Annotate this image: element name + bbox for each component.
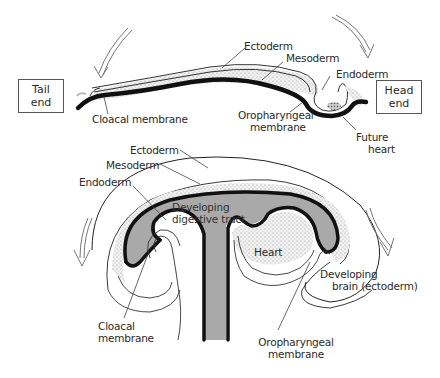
embryo-folding-diagram: Tail end Head end Ectoderm Mesoderm Endo… [0, 0, 440, 378]
brain-line2: brain (ectoderm) [320, 280, 418, 292]
tail-end-box: Tail end [18, 79, 64, 113]
brain-line1: Developing [320, 268, 418, 280]
bottom-oropharyngeal-line1: Oropharyngeal [254, 336, 338, 348]
tail-end-line2: end [31, 96, 52, 109]
bottom-label-mesoderm: Mesoderm [106, 159, 159, 171]
bottom-label-heart: Heart [254, 246, 282, 258]
top-label-endoderm: Endoderm [336, 68, 388, 80]
diagram-artwork [0, 0, 440, 378]
head-end-line1: Head [385, 84, 414, 97]
bottom-cloacal-line2: membrane [98, 332, 154, 344]
top-label-mesoderm: Mesoderm [286, 52, 339, 64]
bottom-label-developing-brain: Developing brain (ectoderm) [320, 268, 418, 292]
head-end-line2: end [389, 97, 410, 110]
bottom-label-developing-digestive-tract: Developing digestive tract [172, 201, 245, 225]
top-oropharyngeal-line2: membrane [238, 121, 314, 133]
future-heart-line2: heart [356, 143, 395, 155]
bottom-oropharyngeal-line2: membrane [254, 348, 338, 360]
bottom-label-cloacal-membrane: Cloacal membrane [98, 320, 154, 344]
top-label-future-heart: Future heart [356, 131, 395, 155]
folding-arrow-right-icon [366, 208, 394, 256]
top-label-oropharyngeal-membrane: Oropharyngeal membrane [238, 109, 314, 133]
tail-end-line1: Tail [32, 83, 50, 96]
head-end-box: Head end [376, 80, 422, 114]
bottom-cloacal-line1: Cloacal [98, 320, 154, 332]
folding-arrow-left-icon [74, 218, 92, 266]
future-heart-line1: Future [356, 131, 395, 143]
bottom-label-oropharyngeal-membrane: Oropharyngeal membrane [254, 336, 338, 360]
folding-arrow-tail-icon [94, 28, 132, 78]
top-label-cloacal-membrane: Cloacal membrane [92, 113, 188, 125]
digestive-line1: Developing [172, 201, 245, 213]
top-label-ectoderm: Ectoderm [244, 40, 293, 52]
digestive-line2: digestive tract [172, 213, 245, 225]
top-oropharyngeal-line1: Oropharyngeal [238, 109, 314, 121]
bottom-label-endoderm: Endoderm [79, 176, 131, 188]
bottom-label-ectoderm: Ectoderm [130, 144, 179, 156]
